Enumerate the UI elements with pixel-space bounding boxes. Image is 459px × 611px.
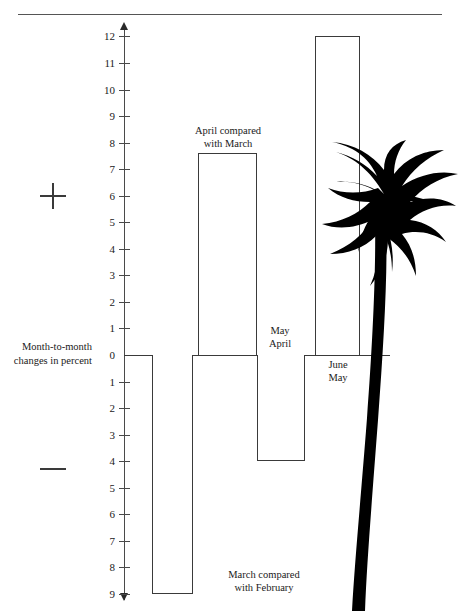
bar-april <box>198 153 257 355</box>
y-tick-label-1: 1 <box>95 323 115 334</box>
y-tick-label-4: 4 <box>95 244 115 255</box>
y-tick-10 <box>119 90 130 91</box>
y-tick-label-0: 0 <box>95 350 115 361</box>
bar-label-april: April compared with March <box>168 124 288 150</box>
y-axis-caption: Month-to-month changes in percent <box>2 340 92 368</box>
y-tick-neg-9 <box>119 594 130 595</box>
y-tick-label-5: 5 <box>95 217 115 228</box>
bar-march <box>152 355 193 594</box>
minus-sign-icon <box>40 468 66 470</box>
y-tick-label-11: 11 <box>95 58 115 69</box>
y-tick-3 <box>119 275 130 276</box>
y-tick-11 <box>119 63 130 64</box>
y-tick-neg-8 <box>119 567 130 568</box>
y-tick-label-neg-8: 8 <box>95 562 115 573</box>
y-tick-label-2: 2 <box>95 297 115 308</box>
y-tick-9 <box>119 116 130 117</box>
y-tick-label-neg-3: 3 <box>95 430 115 441</box>
y-tick-neg-6 <box>119 514 130 515</box>
y-tick-6 <box>119 196 130 197</box>
bar-may <box>257 355 305 461</box>
bar-label-march: March compared with February <box>199 568 329 594</box>
y-tick-neg-7 <box>119 541 130 542</box>
y-axis-arrow-up-icon <box>120 22 128 30</box>
y-tick-label-neg-4: 4 <box>95 456 115 467</box>
y-tick-7 <box>119 169 130 170</box>
plus-sign-icon <box>40 183 66 209</box>
bar-label-june: June May <box>313 358 363 384</box>
y-tick-5 <box>119 222 130 223</box>
y-tick-8 <box>119 143 130 144</box>
y-tick-label-neg-7: 7 <box>95 536 115 547</box>
y-tick-label-9: 9 <box>95 111 115 122</box>
y-tick-neg-1 <box>119 382 130 383</box>
y-tick-12 <box>119 36 130 37</box>
y-tick-label-10: 10 <box>95 85 115 96</box>
chart-figure: 1211109876543210123456789 March compared… <box>0 0 459 611</box>
y-tick-label-neg-6: 6 <box>95 509 115 520</box>
y-tick-label-3: 3 <box>95 270 115 281</box>
bar-june <box>315 36 360 355</box>
y-tick-neg-3 <box>119 435 130 436</box>
y-tick-2 <box>119 302 130 303</box>
y-tick-label-12: 12 <box>95 31 115 42</box>
y-tick-neg-4 <box>119 461 130 462</box>
y-tick-label-neg-2: 2 <box>95 403 115 414</box>
y-tick-label-neg-9: 9 <box>95 589 115 600</box>
y-tick-label-8: 8 <box>95 138 115 149</box>
y-tick-label-neg-5: 5 <box>95 483 115 494</box>
y-tick-label-6: 6 <box>95 191 115 202</box>
y-tick-neg-2 <box>119 408 130 409</box>
bar-label-may: May April <box>255 324 305 350</box>
y-tick-label-7: 7 <box>95 164 115 175</box>
y-tick-1 <box>119 328 130 329</box>
top-horizontal-rule <box>18 14 442 15</box>
y-tick-neg-5 <box>119 488 130 489</box>
y-tick-label-neg-1: 1 <box>95 377 115 388</box>
y-tick-4 <box>119 249 130 250</box>
